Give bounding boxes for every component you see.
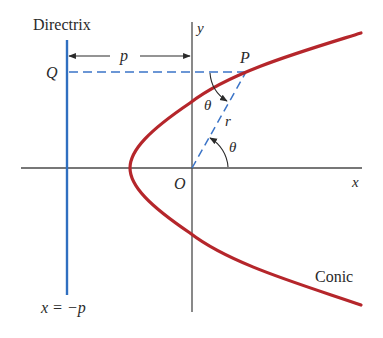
conic-diagram: Directrix y p Q P θ r θ O x Conic x = −p xyxy=(0,0,383,338)
origin-label: O xyxy=(174,175,186,192)
conic-curve xyxy=(130,33,361,305)
point-p-label: P xyxy=(239,49,250,66)
theta-bottom-label: θ xyxy=(229,139,237,155)
diagram-canvas: Directrix y p Q P θ r θ O x Conic x = −p xyxy=(0,0,383,338)
radius-label: r xyxy=(225,113,231,129)
directrix-equation-label: x = −p xyxy=(40,299,86,317)
theta-top-label: θ xyxy=(204,97,212,113)
directrix-label: Directrix xyxy=(33,16,91,33)
theta-arc-origin xyxy=(210,138,228,167)
x-axis-label: x xyxy=(351,174,359,190)
y-axis-label: y xyxy=(195,20,204,36)
point-q-label: Q xyxy=(46,64,58,81)
conic-label: Conic xyxy=(315,268,353,285)
distance-p-label: p xyxy=(119,47,128,65)
